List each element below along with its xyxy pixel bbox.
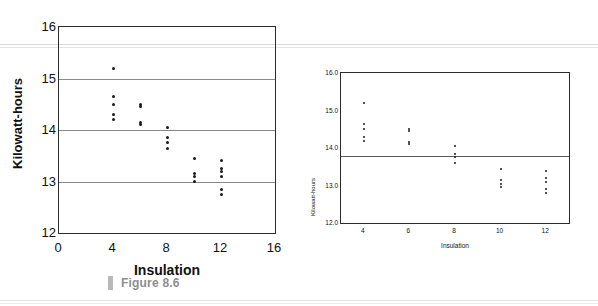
data-point <box>363 136 365 138</box>
data-point <box>112 113 115 116</box>
data-point <box>112 118 115 121</box>
data-point <box>500 183 502 185</box>
data-point <box>139 105 142 108</box>
x-tick-label: 16 <box>259 240 289 255</box>
data-point <box>500 168 502 170</box>
data-point <box>363 128 365 130</box>
data-point <box>166 141 169 144</box>
scan-artifact-line <box>0 303 598 304</box>
data-point <box>166 136 169 139</box>
figure-caption: Figure 8.6 <box>108 276 180 290</box>
data-point <box>454 145 456 147</box>
left-gridline <box>59 79 275 80</box>
data-point <box>220 159 223 162</box>
data-point <box>363 140 365 142</box>
y-tick-label: 14.0 <box>304 144 338 151</box>
data-point <box>363 102 365 104</box>
right-x-axis-title: Insulation <box>340 242 570 249</box>
y-tick-label: 15.0 <box>304 107 338 114</box>
data-point <box>220 193 223 196</box>
data-point <box>545 181 547 183</box>
x-tick-label: 12 <box>205 240 235 255</box>
right-scatter-chart: Kilowatt-hours 16.015.014.013.012.0 4681… <box>300 60 598 290</box>
data-point <box>193 157 196 160</box>
data-point <box>500 186 502 188</box>
data-point <box>112 95 115 98</box>
right-x-tick-labels: 4681012 <box>340 227 570 239</box>
x-tick-label: 8 <box>151 240 181 255</box>
data-point <box>545 177 547 179</box>
figure-caption-text: Figure 8.6 <box>121 276 180 290</box>
x-tick-label: 4 <box>97 240 127 255</box>
x-tick-label: 10 <box>488 227 512 234</box>
data-point <box>220 175 223 178</box>
data-point <box>220 170 223 173</box>
data-point <box>454 153 456 155</box>
left-x-tick-labels: 0481216 <box>58 240 276 258</box>
y-tick-label: 13.0 <box>304 182 338 189</box>
right-y-tick-labels: 16.015.014.013.012.0 <box>300 72 338 224</box>
left-y-tick-labels: 1615141312 <box>0 26 56 234</box>
y-tick-label: 12.0 <box>304 219 338 226</box>
x-tick-label: 4 <box>351 227 375 234</box>
y-tick-label: 16 <box>4 19 56 34</box>
x-tick-label: 6 <box>396 227 420 234</box>
data-point <box>220 188 223 191</box>
data-point <box>408 143 410 145</box>
caption-bar-icon <box>108 276 113 290</box>
data-point <box>500 179 502 181</box>
data-point <box>545 170 547 172</box>
data-point <box>545 192 547 194</box>
data-point <box>408 130 410 132</box>
x-tick-label: 8 <box>442 227 466 234</box>
left-scatter-chart: Kilowatt-hours 1615141312 0481216 Insula… <box>0 0 300 290</box>
data-point <box>112 103 115 106</box>
x-tick-label: 12 <box>533 227 557 234</box>
data-point <box>454 156 456 158</box>
y-tick-label: 14 <box>4 122 56 137</box>
left-plot-area <box>58 26 276 234</box>
left-gridline <box>59 130 275 131</box>
y-tick-label: 12 <box>4 225 56 240</box>
data-point <box>454 162 456 164</box>
data-point <box>545 188 547 190</box>
y-tick-label: 16.0 <box>304 69 338 76</box>
y-tick-label: 15 <box>4 71 56 86</box>
data-point <box>139 123 142 126</box>
left-gridline <box>59 182 275 183</box>
data-point <box>166 147 169 150</box>
data-point <box>112 67 115 70</box>
data-point <box>166 126 169 129</box>
data-point <box>363 123 365 125</box>
right-plot-area <box>340 72 570 224</box>
data-point <box>193 175 196 178</box>
y-tick-label: 13 <box>4 174 56 189</box>
scan-artifact-line <box>0 300 598 301</box>
data-point <box>193 180 196 183</box>
x-tick-label: 0 <box>43 240 73 255</box>
